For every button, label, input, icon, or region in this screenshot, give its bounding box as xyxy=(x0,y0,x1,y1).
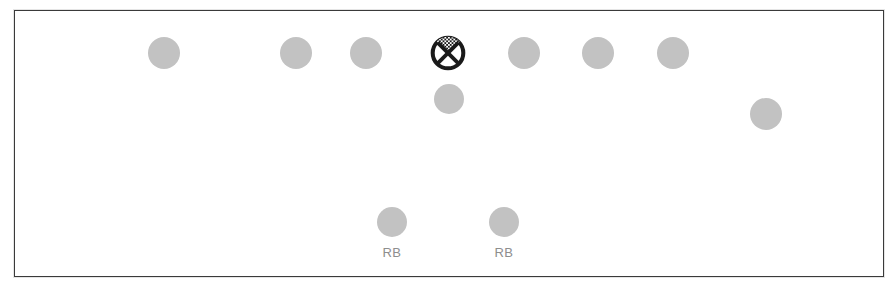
player-marker[interactable] xyxy=(350,37,382,69)
player-dot xyxy=(148,37,180,69)
player-marker-rb[interactable]: RB xyxy=(489,207,519,237)
player-marker[interactable] xyxy=(148,37,180,69)
player-dot xyxy=(489,207,519,237)
center-x-icon xyxy=(430,35,466,71)
player-marker[interactable] xyxy=(434,84,464,114)
player-dot xyxy=(434,84,464,114)
player-dot xyxy=(657,37,689,69)
player-dot xyxy=(350,37,382,69)
player-marker-rb[interactable]: RB xyxy=(377,207,407,237)
player-position-label: RB xyxy=(382,246,401,259)
player-dot xyxy=(750,98,782,130)
player-marker[interactable] xyxy=(582,37,614,69)
player-marker[interactable] xyxy=(657,37,689,69)
player-dot xyxy=(377,207,407,237)
player-marker[interactable] xyxy=(750,98,782,130)
player-marker[interactable] xyxy=(280,37,312,69)
player-dot xyxy=(508,37,540,69)
field-frame: RBRB xyxy=(14,10,884,277)
player-position-label: RB xyxy=(494,246,513,259)
formation-diagram-stage: RBRB xyxy=(0,0,894,297)
player-dot xyxy=(280,37,312,69)
center-snapper-marker[interactable] xyxy=(430,35,466,71)
player-marker[interactable] xyxy=(508,37,540,69)
player-dot xyxy=(582,37,614,69)
